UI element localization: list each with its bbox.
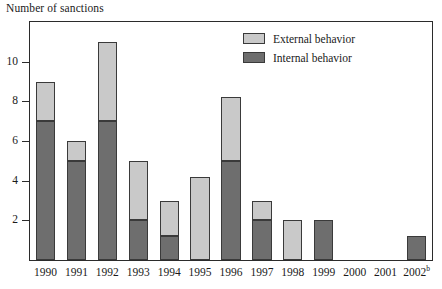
bar-group xyxy=(129,161,148,260)
x-axis-label: 2001 xyxy=(370,266,401,278)
legend-swatch xyxy=(243,33,265,44)
x-axis-label: 1991 xyxy=(61,266,92,278)
y-axis-tick: 8 xyxy=(22,101,30,102)
y-axis-tick-label: 2 xyxy=(12,213,18,225)
bar-segment-external xyxy=(129,161,148,221)
y-axis-tick-label: 4 xyxy=(12,174,18,186)
x-axis-label: 1997 xyxy=(246,266,277,278)
x-axis-label: 2000 xyxy=(339,266,370,278)
bar-segment-internal xyxy=(36,121,55,260)
legend-label: Internal behavior xyxy=(273,52,352,64)
x-axis-label: 1993 xyxy=(123,266,154,278)
legend-swatch xyxy=(243,52,265,63)
bar-segment-external xyxy=(252,201,271,221)
bar-segment-external xyxy=(36,82,55,122)
y-axis-tick: 10 xyxy=(22,62,30,63)
bar-segment-external xyxy=(221,97,240,160)
y-axis-tick: 4 xyxy=(22,181,30,182)
x-axis-label-footnote: b xyxy=(426,264,430,273)
bar-segment-internal xyxy=(160,236,179,260)
x-axis-label: 1999 xyxy=(308,266,339,278)
bar-group xyxy=(67,141,86,260)
bar-group xyxy=(190,177,209,260)
bar-segment-internal xyxy=(129,220,148,260)
bar-group xyxy=(252,201,271,261)
x-axis-label: 1996 xyxy=(216,266,247,278)
y-axis-tick: 6 xyxy=(22,141,30,142)
chart-legend: External behaviorInternal behavior xyxy=(243,30,393,68)
bar-group xyxy=(221,97,240,260)
bar-segment-internal xyxy=(221,161,240,260)
bar-segment-external xyxy=(283,220,302,260)
bar-group xyxy=(314,220,333,260)
bar-segment-internal xyxy=(314,220,333,260)
bar-segment-internal xyxy=(98,121,117,260)
bar-group xyxy=(160,201,179,261)
legend-item: Internal behavior xyxy=(243,49,393,66)
x-axis-label: 1992 xyxy=(92,266,123,278)
bar-segment-internal xyxy=(67,161,86,260)
bar-segment-external xyxy=(190,177,209,260)
bar-group xyxy=(36,82,55,261)
bar-segment-internal xyxy=(252,220,271,260)
x-axis-label: 1998 xyxy=(277,266,308,278)
y-axis-tick-label: 6 xyxy=(12,134,18,146)
bar-group xyxy=(407,236,426,260)
bar-segment-external xyxy=(98,42,117,121)
bar-segment-external xyxy=(160,201,179,237)
y-axis-tick: 2 xyxy=(22,220,30,221)
legend-label: External behavior xyxy=(273,33,355,45)
sanctions-bar-chart: Number of sanctions 246810 1990199119921… xyxy=(0,0,442,289)
x-axis-label: 1990 xyxy=(30,266,61,278)
y-axis-tick-label: 8 xyxy=(12,94,18,106)
x-axis-label: 1994 xyxy=(154,266,185,278)
bar-group xyxy=(98,42,117,260)
x-axis-label: 1995 xyxy=(185,266,216,278)
bar-segment-internal xyxy=(407,236,426,260)
bar-group xyxy=(283,220,302,260)
bar-segment-external xyxy=(67,141,86,161)
legend-item: External behavior xyxy=(243,30,393,47)
x-axis-label: 2002b xyxy=(401,266,432,278)
y-axis-title: Number of sanctions xyxy=(6,2,104,14)
y-axis-tick-label: 10 xyxy=(7,55,19,67)
